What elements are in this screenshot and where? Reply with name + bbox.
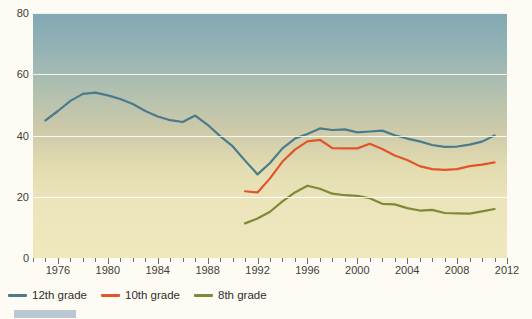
x-tick-2005 bbox=[420, 258, 421, 262]
x-tick-1977 bbox=[70, 258, 71, 262]
x-tick-1974 bbox=[33, 258, 34, 262]
x-tick-1979 bbox=[95, 258, 96, 262]
x-tick-1994 bbox=[282, 258, 283, 262]
x-tick-1983 bbox=[145, 258, 146, 262]
legend-swatch-icon bbox=[194, 294, 213, 297]
series-line-8th-grade bbox=[245, 186, 494, 224]
chart-figure: 806040200 197619801984198819921996200020… bbox=[0, 0, 532, 319]
x-tick-label-1996: 1996 bbox=[295, 264, 319, 276]
x-tick-1985 bbox=[170, 258, 171, 262]
x-tick-2002 bbox=[382, 258, 383, 262]
x-tick-label-1976: 1976 bbox=[46, 264, 70, 276]
x-tick-1995 bbox=[295, 258, 296, 262]
y-tick-label-60: 60 bbox=[3, 69, 29, 79]
x-tick-label-2004: 2004 bbox=[395, 264, 419, 276]
legend-label: 8th grade bbox=[218, 289, 267, 301]
y-tick-label-20: 20 bbox=[3, 192, 29, 202]
x-tick-1999 bbox=[345, 258, 346, 262]
legend-item-8th-grade[interactable]: 8th grade bbox=[194, 289, 267, 301]
x-tick-2006 bbox=[432, 258, 433, 262]
x-tick-1990 bbox=[233, 258, 234, 262]
x-tick-1989 bbox=[220, 258, 221, 262]
x-tick-1991 bbox=[245, 258, 246, 262]
x-tick-label-1984: 1984 bbox=[145, 264, 169, 276]
gridline-60 bbox=[33, 74, 507, 75]
x-tick-2011 bbox=[495, 258, 496, 262]
x-tick-1982 bbox=[133, 258, 134, 262]
x-tick-1997 bbox=[320, 258, 321, 262]
x-tick-2007 bbox=[445, 258, 446, 262]
y-tick-label-0: 0 bbox=[3, 253, 29, 263]
x-tick-1986 bbox=[183, 258, 184, 262]
legend-swatch-icon bbox=[101, 294, 120, 297]
legend-item-12th-grade[interactable]: 12th grade bbox=[8, 289, 87, 301]
x-tick-label-2000: 2000 bbox=[345, 264, 369, 276]
gridline-40 bbox=[33, 136, 507, 137]
clipped-title bbox=[0, 0, 532, 9]
x-tick-2003 bbox=[395, 258, 396, 262]
x-tick-1993 bbox=[270, 258, 271, 262]
x-tick-1987 bbox=[195, 258, 196, 262]
x-tick-1998 bbox=[332, 258, 333, 262]
x-tick-label-1988: 1988 bbox=[195, 264, 219, 276]
legend-swatch-icon bbox=[8, 294, 27, 297]
x-tick-2009 bbox=[470, 258, 471, 262]
x-tick-label-2012: 2012 bbox=[495, 264, 519, 276]
y-tick-label-40: 40 bbox=[3, 131, 29, 141]
x-tick-1981 bbox=[120, 258, 121, 262]
chart-legend: 12th grade10th grade8th grade bbox=[8, 288, 267, 302]
plot-area bbox=[33, 13, 507, 258]
y-tick-label-80: 80 bbox=[3, 8, 29, 18]
series-line-12th-grade bbox=[45, 93, 494, 175]
legend-label: 10th grade bbox=[125, 289, 180, 301]
footer-accent-bar bbox=[14, 310, 76, 318]
legend-label: 12th grade bbox=[32, 289, 87, 301]
gridline-80 bbox=[33, 13, 507, 14]
x-axis-labels: 1976198019841988199219962000200420082012 bbox=[0, 264, 532, 278]
x-tick-1975 bbox=[45, 258, 46, 262]
gridline-20 bbox=[33, 197, 507, 198]
x-tick-label-1980: 1980 bbox=[96, 264, 120, 276]
y-axis: 806040200 bbox=[0, 0, 29, 271]
x-tick-label-1992: 1992 bbox=[245, 264, 269, 276]
legend-item-10th-grade[interactable]: 10th grade bbox=[101, 289, 180, 301]
x-tick-label-2008: 2008 bbox=[445, 264, 469, 276]
x-tick-1978 bbox=[83, 258, 84, 262]
x-tick-2010 bbox=[482, 258, 483, 262]
x-tick-2001 bbox=[370, 258, 371, 262]
